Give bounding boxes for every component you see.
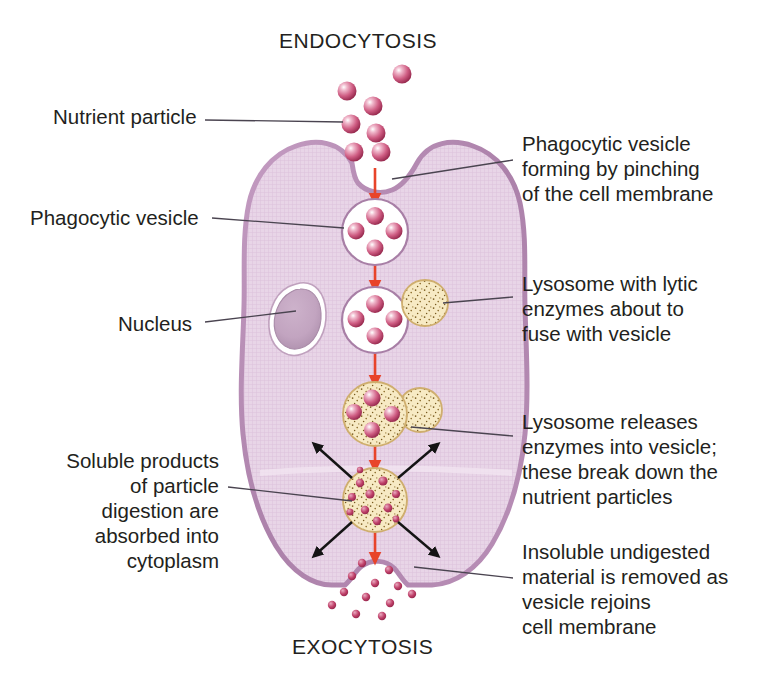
expelled-particle: [408, 590, 416, 598]
free-lysosome: [402, 280, 448, 326]
expelled-particle: [371, 579, 379, 587]
fragment: [346, 508, 353, 515]
nutrient-particle: [338, 82, 357, 101]
expelled-particle: [386, 599, 394, 607]
endocytosis-exocytosis-diagram: ENDOCYTOSIS EXOCYTOSIS Nutrient particle…: [0, 0, 759, 684]
nutrient-particle-tagged: [342, 115, 361, 134]
fragment: [392, 490, 400, 498]
label-phagocytic-vesicle: Phagocytic vesicle: [30, 205, 199, 230]
endocytosis-title: ENDOCYTOSIS: [279, 28, 437, 53]
nutrient-particle: [345, 143, 364, 162]
nutrient-particle-inside: [384, 406, 400, 422]
leader-nutrient-particle: [205, 120, 343, 122]
fragment: [357, 467, 363, 473]
fragment: [361, 506, 369, 514]
nutrient-particle-inside: [346, 404, 362, 420]
label-nucleus: Nucleus: [118, 311, 192, 336]
nutrient-particle-inside: [364, 390, 381, 407]
digestive-vesicle: [343, 467, 407, 532]
phagocytic-vesicle-1: [342, 199, 408, 265]
expelled-particle: [362, 593, 370, 601]
nutrient-particle-inside: [386, 223, 403, 240]
phagocytic-vesicle-2: [342, 287, 408, 353]
expelled-particle: [378, 612, 386, 620]
nutrient-particles-extracellular: [338, 65, 412, 162]
nutrient-particle-inside: [367, 328, 384, 345]
expelled-particle: [348, 572, 356, 580]
expelled-particle: [352, 610, 360, 618]
fragment: [356, 479, 364, 487]
exocytosis-title: EXOCYTOSIS: [292, 634, 433, 659]
expelled-particle: [394, 582, 402, 590]
label-soluble-products: Soluble products of particle digestion a…: [23, 448, 219, 573]
nutrient-particle-inside: [367, 240, 384, 257]
fragment: [378, 476, 387, 485]
nutrient-particle: [364, 97, 383, 116]
nutrient-particle: [367, 124, 386, 143]
label-insoluble-undigested-material: Insoluble undigested material is removed…: [522, 539, 728, 639]
fragment: [373, 517, 381, 525]
nutrient-particle-inside: [348, 223, 365, 240]
expelled-particle: [328, 601, 336, 609]
expelled-particle: [358, 559, 366, 567]
fragment: [348, 493, 356, 501]
nutrient-particle: [372, 143, 391, 162]
label-lysosome-with-lytic-enzymes: Lysosome with lytic enzymes about to fus…: [522, 271, 698, 346]
fragment: [393, 516, 400, 523]
expelled-particle: [385, 566, 393, 574]
fragment: [365, 489, 374, 498]
nutrient-particle-inside: [366, 295, 384, 313]
nutrient-particle-inside: [366, 207, 384, 225]
label-nutrient-particle: Nutrient particle: [53, 104, 197, 129]
label-phagocytic-vesicle-forming: Phagocytic vesicle forming by pinching o…: [522, 131, 713, 206]
nutrient-particle-inside: [348, 311, 365, 328]
lysosome-body: [402, 280, 448, 326]
label-lysosome-releases-enzymes: Lysosome releases enzymes into vesicle; …: [522, 409, 718, 509]
expelled-particle: [340, 588, 348, 596]
nutrient-particle-inside: [386, 311, 403, 328]
nutrient-particle: [393, 65, 412, 84]
fragment: [384, 504, 393, 513]
nutrient-particle-inside: [364, 422, 380, 438]
